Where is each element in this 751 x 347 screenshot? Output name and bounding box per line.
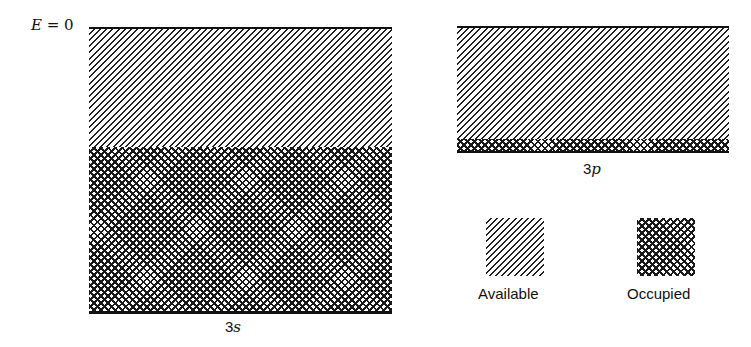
band-3p-available-region (457, 28, 729, 139)
band-3p-bottom-line (457, 151, 729, 153)
band-3s-label-letter: s (233, 318, 241, 336)
legend-available-swatch (486, 218, 544, 276)
band-3p-label: 3p (583, 160, 601, 178)
band-3p (457, 26, 729, 153)
band-3s (89, 27, 392, 313)
band-3p-label-letter: p (591, 160, 601, 178)
band-3s-available-region (89, 29, 392, 147)
band-3s-label: 3s (225, 318, 241, 336)
band-3s-occupied-region (89, 147, 392, 311)
legend-occupied-swatch (637, 218, 695, 276)
band-3s-bottom-line (89, 311, 392, 314)
energy-zero-label: E = 0 (31, 16, 74, 34)
band-3p-occupied-region (457, 139, 729, 151)
energy-equals-zero: = 0 (42, 16, 74, 34)
energy-variable: E (31, 16, 42, 34)
legend-available-label: Available (478, 285, 539, 302)
legend-occupied-label: Occupied (627, 285, 690, 302)
